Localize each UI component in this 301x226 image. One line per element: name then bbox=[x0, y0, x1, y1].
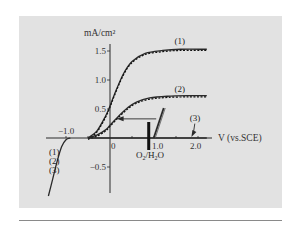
curve-label-0: (1) bbox=[174, 36, 185, 46]
y-axis-label: mA/cm² bbox=[84, 28, 115, 38]
y-tick-label: 1.5 bbox=[95, 46, 107, 56]
iv-chart: −1.001.02.01.51.00.5−0.5V (vs.SCE)mA/cm²… bbox=[0, 0, 301, 226]
curve-label-5: (3) bbox=[49, 165, 60, 175]
x-tick-label: 2.0 bbox=[190, 141, 202, 151]
o2-h2o-marker-bar bbox=[147, 122, 150, 150]
y-tick-label: 1.0 bbox=[95, 75, 107, 85]
curve-label-1: (2) bbox=[174, 84, 185, 94]
curve-3-arrow-head bbox=[191, 130, 196, 137]
x-axis-label: V (vs.SCE) bbox=[218, 133, 262, 144]
y-tick-label: 0.5 bbox=[95, 104, 107, 114]
x-tick-label: 0 bbox=[111, 141, 116, 151]
o2-h2o-label: O2/H2O bbox=[136, 150, 165, 161]
o2-evolution-line bbox=[154, 108, 164, 138]
o2-evolution-line-2 bbox=[155, 108, 165, 138]
curve-label-2: (3) bbox=[190, 113, 201, 123]
x-tick-label: −1.0 bbox=[58, 126, 75, 136]
y-tick-label: −0.5 bbox=[90, 162, 107, 172]
